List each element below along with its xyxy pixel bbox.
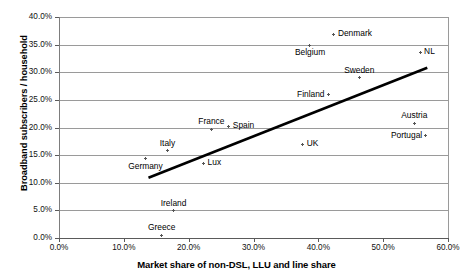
- data-point-label: NL: [424, 47, 435, 56]
- x-tick-label: 50.0%: [357, 243, 409, 252]
- x-tick-label: 10.0%: [98, 243, 150, 252]
- y-tick-label: 40.0%: [0, 13, 52, 21]
- scatter-chart: Broadband subscribers / household 0.0%5.…: [0, 0, 473, 275]
- data-point: [413, 122, 416, 125]
- data-point-label: Belgium: [295, 48, 325, 57]
- data-point-label: Lux: [208, 158, 222, 167]
- x-tick-mark: [254, 238, 255, 242]
- x-tick-mark: [383, 238, 384, 242]
- data-point-label: Germany: [128, 162, 162, 171]
- y-tick-label: 35.0%: [0, 41, 52, 49]
- data-point: [202, 162, 205, 165]
- data-point-label: Finland: [297, 90, 324, 99]
- data-point-label: Austria: [401, 111, 427, 120]
- x-tick-label: 20.0%: [163, 243, 215, 252]
- y-tick-label: 0.0%: [0, 234, 52, 242]
- data-point-label: France: [198, 117, 224, 126]
- y-tick-label: 20.0%: [0, 124, 52, 132]
- gridline: [60, 100, 449, 101]
- data-point: [301, 143, 304, 146]
- gridline: [60, 72, 449, 73]
- gridline: [60, 128, 449, 129]
- x-tick-mark: [189, 238, 190, 242]
- x-tick-mark: [124, 238, 125, 242]
- data-point: [210, 128, 213, 131]
- data-point-label: Sweden: [344, 66, 374, 75]
- y-tick-label: 25.0%: [0, 96, 52, 104]
- y-tick-label: 30.0%: [0, 68, 52, 76]
- data-point: [358, 76, 361, 79]
- data-point-label: UK: [307, 139, 319, 148]
- gridline: [60, 45, 449, 46]
- x-tick-label: 60.0%: [422, 243, 473, 252]
- data-point-label: Ireland: [161, 199, 187, 208]
- data-point: [172, 209, 175, 212]
- data-point-label: Italy: [160, 139, 175, 148]
- data-point-label: Greece: [148, 223, 175, 232]
- data-point: [424, 134, 427, 137]
- x-tick-label: 40.0%: [292, 243, 344, 252]
- y-tick-label: 5.0%: [0, 206, 52, 214]
- x-tick-mark: [59, 238, 60, 242]
- data-point-label: Spain: [233, 121, 254, 130]
- gridline: [60, 17, 449, 18]
- data-point: [327, 93, 330, 96]
- data-point: [160, 234, 163, 237]
- y-tick-label: 15.0%: [0, 151, 52, 159]
- data-point-label: Denmark: [338, 29, 372, 38]
- data-point: [227, 125, 230, 128]
- gridline: [60, 210, 449, 211]
- data-point: [419, 51, 422, 54]
- x-tick-label: 30.0%: [228, 243, 280, 252]
- data-point-label: Portugal: [391, 131, 422, 140]
- gridline: [60, 155, 449, 156]
- data-point: [166, 149, 169, 152]
- x-tick-mark: [318, 238, 319, 242]
- x-tick-mark: [448, 238, 449, 242]
- y-tick-label: 10.0%: [0, 179, 52, 187]
- plot-right-border: [448, 17, 449, 239]
- x-tick-label: 0.0%: [33, 243, 85, 252]
- x-axis-title: Market share of non-DSL, LLU and line sh…: [0, 259, 473, 270]
- gridline: [60, 183, 449, 184]
- data-point: [332, 33, 335, 36]
